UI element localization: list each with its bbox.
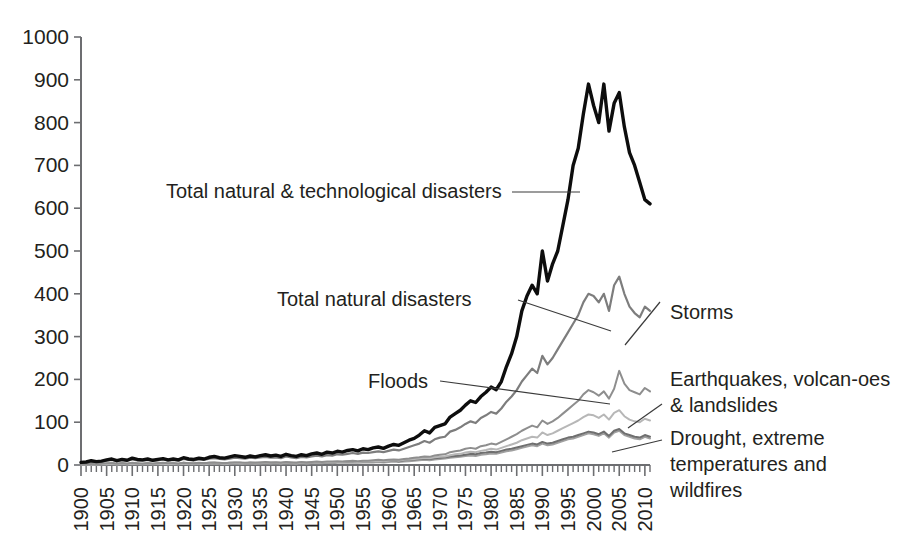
annotation-drought-line1: Drought, extreme (670, 427, 825, 449)
x-tick-label: 1905 (96, 487, 118, 532)
y-tick-label: 0 (57, 453, 69, 476)
x-tick-label: 1920 (173, 487, 195, 532)
leader-line (518, 300, 611, 331)
leader-line (612, 440, 662, 452)
x-tick-label: 1975 (454, 487, 476, 532)
y-tick-label: 400 (34, 282, 69, 305)
x-tick-label: 1945 (301, 487, 323, 532)
x-tick-label: 1980 (480, 487, 502, 532)
x-tick-label: 1965 (403, 487, 425, 532)
y-tick-label: 200 (34, 367, 69, 390)
x-tick-label: 1995 (557, 487, 579, 532)
x-tick-label: 1935 (249, 487, 271, 532)
series-lines (81, 84, 650, 464)
annotation-leader-lines (440, 192, 662, 452)
leader-line (628, 404, 662, 428)
disasters-line-chart: 01002003004005006007008009001000 1900190… (0, 0, 908, 551)
x-tick-label: 1930 (224, 487, 246, 532)
x-tick-label: 1910 (121, 487, 143, 532)
y-tick-label: 900 (34, 68, 69, 91)
y-tick-label: 700 (34, 153, 69, 176)
x-tick-label: 2010 (634, 487, 656, 532)
x-tick-label: 1970 (429, 487, 451, 532)
x-tick-label: 2005 (608, 487, 630, 532)
x-tick-label: 1940 (275, 487, 297, 532)
x-tick-label: 1985 (506, 487, 528, 532)
series-line (81, 84, 650, 462)
annotation-floods: Floods (368, 370, 428, 392)
y-tick-label: 800 (34, 111, 69, 134)
y-tick-label: 300 (34, 325, 69, 348)
x-tick-label: 1955 (352, 487, 374, 532)
series-line (81, 410, 650, 464)
annotation-earthquakes-line1: Earthquakes, volcan-oes (670, 368, 890, 390)
x-tick-label: 2000 (583, 487, 605, 532)
chart-svg: 01002003004005006007008009001000 1900190… (0, 0, 908, 551)
y-tick-label: 500 (34, 239, 69, 262)
x-tick-label: 1950 (326, 487, 348, 532)
x-tick-label: 1990 (531, 487, 553, 532)
annotation-drought-line2: temperatures and (670, 453, 827, 475)
x-tick-label: 1915 (147, 487, 169, 532)
y-tick-label: 100 (34, 410, 69, 433)
y-tick-label: 1000 (22, 25, 69, 48)
annotation-drought-line3: wildfires (669, 479, 742, 501)
y-axis: 01002003004005006007008009001000 (22, 25, 81, 476)
y-tick-label: 600 (34, 196, 69, 219)
x-tick-label: 1900 (70, 487, 92, 532)
annotation-total-natural: Total natural disasters (277, 288, 472, 310)
annotation-total-natural-technological: Total natural & technological disasters (166, 180, 502, 202)
annotation-earthquakes-line2: & landslides (670, 394, 778, 416)
annotation-storms: Storms (670, 301, 733, 323)
x-tick-label: 1960 (378, 487, 400, 532)
x-tick-label: 1925 (198, 487, 220, 532)
x-axis: 1900190519101915192019251930193519401945… (70, 465, 656, 532)
